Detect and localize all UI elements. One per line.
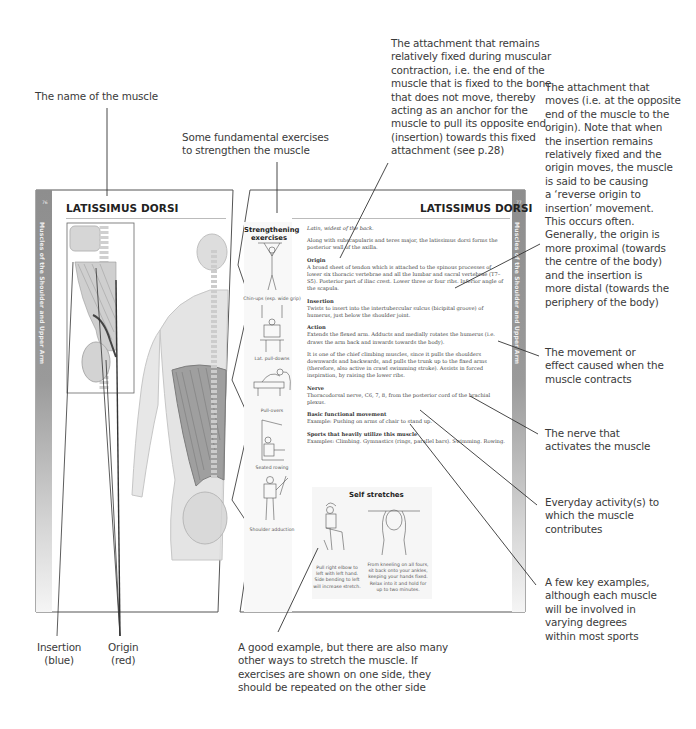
section-text: Thoracodorsal nerve, C6, 7, 8, from the … xyxy=(307,392,490,405)
stretch-caption-2: From kneeling on all fours, sit back ont… xyxy=(366,562,430,593)
right-page-title: LATISSIMUS DORSI xyxy=(420,202,533,214)
section-nerve: NerveThoracodorsal nerve, C6, 7, 8, from… xyxy=(307,385,507,407)
muscle-description: Latin, widest of the back. Along with su… xyxy=(307,225,507,450)
section-functional: Basic functional movementExample: Pushin… xyxy=(307,411,507,425)
section-origin: OriginA broad sheet of tendon which is a… xyxy=(307,257,507,293)
title-rule-right xyxy=(292,218,510,219)
section-text: Example: Pushing on arms of chair to sta… xyxy=(307,418,432,424)
section-text: A broad sheet of tendon which is attache… xyxy=(307,264,503,292)
section-sports: Sports that heavily utilize this muscleE… xyxy=(307,431,507,445)
exercise-label-pull-overs: Pull-overs xyxy=(237,408,307,413)
section-text: It is one of the chief climbing muscles,… xyxy=(307,351,487,379)
latin-meaning: Latin, widest of the back. xyxy=(307,225,507,232)
section-text: Extends the flexed arm. Adducts and medi… xyxy=(307,331,495,344)
right-sidebar-text: Muscles of the Shoulder and Upper Arm xyxy=(514,222,521,364)
section-heading: Basic functional movement xyxy=(307,411,507,418)
section-heading: Sports that heavily utilize this muscle xyxy=(307,431,507,438)
section-text: Twists to insert into the intertubercula… xyxy=(307,305,483,318)
section-heading: Insertion xyxy=(307,298,507,305)
section-action: ActionExtends the flexed arm. Adducts an… xyxy=(307,324,507,346)
section-text: Examples: Climbing. Gymnastics (rings, p… xyxy=(307,438,505,444)
exercise-label-seated-rowing: Seated rowing xyxy=(237,465,307,470)
exercise-label-shoulder-adduction: Shoulder adduction xyxy=(237,527,307,532)
section-action-detail: It is one of the chief climbing muscles,… xyxy=(307,351,507,380)
self-stretches-title: Self stretches xyxy=(349,491,404,499)
right-page: 77 Muscles of the Shoulder and Upper Arm… xyxy=(0,0,696,729)
strengthening-title: Strengthening exercises xyxy=(244,226,294,242)
section-insertion: InsertionTwists to insert into the inter… xyxy=(307,298,507,320)
section-heading: Nerve xyxy=(307,385,507,392)
exercise-label-lat-pull-downs: Lat. pull-downs xyxy=(237,356,307,361)
intro-text: Along with subscapularis and teres major… xyxy=(307,237,507,251)
section-heading: Origin xyxy=(307,257,507,264)
stretch-caption-1: Pull right elbow to left with left hand.… xyxy=(312,565,362,590)
section-heading: Action xyxy=(307,324,507,331)
exercise-label-chin-ups: Chin-ups (esp. wide grip) xyxy=(237,296,307,301)
